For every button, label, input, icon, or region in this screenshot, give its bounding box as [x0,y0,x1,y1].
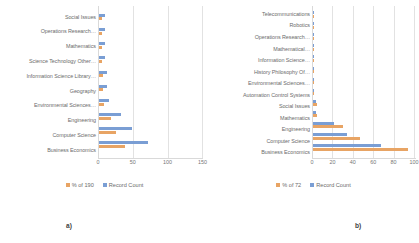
cat-label: Social Issues [279,104,312,110]
cat-label: Operations Research… [255,35,312,41]
bar-record-count [99,71,107,74]
bar-record-count [313,55,314,58]
bar-record-count [99,56,105,59]
bar-percent [99,32,102,35]
bar-percent [99,88,103,91]
bar-record-count [313,122,334,125]
bar-group [99,113,204,120]
caption-a: a) [66,222,72,229]
cat-label: Science Technology Other… [29,59,98,65]
legend-swatch-icon [276,183,280,187]
bar-percent [99,103,104,106]
cat-label: History Philosophy Of… [254,70,312,76]
bar-record-count [313,89,314,92]
caption-b: b) [355,222,361,229]
bar-percent [99,145,125,148]
bar-record-count [313,67,314,70]
bar-record-count [99,28,105,31]
category-axis-a: Social Issues Operations Research… Mathe… [2,6,98,164]
bar-group [99,127,204,134]
chart-a: Social Issues Operations Research… Mathe… [2,6,207,164]
bar-record-count [99,42,105,45]
cat-label: Environmental Sciences… [248,81,312,87]
x-tick-label: 40 [350,159,356,165]
plot-area-a [98,6,203,158]
legend-b: % of 72 Record Count [209,182,418,188]
cat-label: Information Science… [258,58,312,64]
cat-label: Mathematics [280,116,312,122]
cat-label: Social Issues [65,15,98,21]
cat-label: Computer Science [52,133,98,139]
legend-label: Record Count [316,182,351,188]
bar-record-count [313,144,381,147]
cat-label: Mathematics [66,44,98,50]
bar-percent [313,137,360,140]
cat-label: Mathematical… [273,47,312,53]
bar-record-count [99,113,121,116]
cat-label: Environmental Sciences… [34,103,98,109]
bar-percent [99,17,102,20]
cat-label: Engineering [282,127,312,133]
legend-swatch-icon [103,183,107,187]
panel-b: Telecommunications Robotics Operations R… [209,0,418,243]
chart-b: Telecommunications Robotics Operations R… [211,6,416,164]
bar-group [313,44,417,51]
x-axis-b: 020406080100 [312,158,416,168]
axis-line [312,158,416,159]
bar-group [99,71,204,78]
axis-line [98,158,203,159]
bar-record-count [313,22,314,25]
bar-group [313,89,417,96]
bar-percent [99,74,103,77]
x-tick-label: 150 [198,159,207,165]
x-axis-a: 050100150 [98,158,203,168]
bar-percent [313,37,314,40]
bar-percent [99,117,111,120]
panel-a: Social Issues Operations Research… Mathe… [0,0,209,243]
cat-label: Telecommunications [262,12,312,18]
x-tick-label: 100 [163,159,172,165]
bars-b [312,6,417,158]
bar-group [313,33,417,40]
bars-a [98,6,204,158]
bar-group [99,99,204,106]
bar-percent [313,70,314,73]
bar-group [99,56,204,63]
legend-item-pct[interactable]: % of 190 [66,182,94,188]
cat-label: Geography [70,89,98,95]
bar-percent [313,59,314,62]
bar-percent [313,103,317,106]
bar-percent [313,81,314,84]
legend-item-pct[interactable]: % of 72 [276,182,301,188]
bar-record-count [313,133,347,136]
category-axis-b: Telecommunications Robotics Operations R… [211,6,312,164]
x-tick-label: 50 [130,159,136,165]
bar-percent [313,114,317,117]
bar-group [313,55,417,62]
bar-record-count [99,127,132,130]
legend-item-record-count[interactable]: Record Count [103,182,144,188]
cat-label: Information Science Library… [26,74,98,80]
legend-swatch-icon [66,183,70,187]
bar-percent [313,48,314,51]
bar-record-count [99,85,107,88]
bar-record-count [313,33,314,36]
bar-group [313,100,417,107]
legend-swatch-icon [310,183,314,187]
bar-group [99,141,204,148]
legend-label: Record Count [109,182,144,188]
bar-group [99,85,204,92]
legend-item-record-count[interactable]: Record Count [310,182,351,188]
bar-record-count [313,100,316,103]
x-tick-label: 80 [391,159,397,165]
bar-percent [99,46,102,49]
cat-label: Operations Research… [41,29,98,35]
bar-percent [313,26,314,29]
bar-group [313,11,417,18]
bar-record-count [313,111,316,114]
x-tick-label: 20 [329,159,335,165]
bar-record-count [313,44,314,47]
cat-label: Automation Control Systems [243,93,312,99]
bar-percent [99,131,116,134]
cat-label: Computer Science [266,139,312,145]
